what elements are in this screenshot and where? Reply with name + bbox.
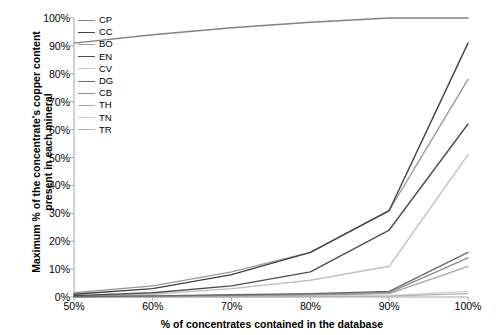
series-line-bo: [74, 79, 468, 292]
legend: CPCCBOENCVDGCBTHTNTR: [78, 14, 124, 136]
legend-item-cp[interactable]: CP: [78, 14, 124, 26]
legend-swatch-icon: [78, 117, 95, 118]
legend-swatch-icon: [78, 56, 95, 57]
legend-item-label: CV: [99, 64, 112, 74]
legend-swatch-icon: [78, 44, 95, 45]
legend-item-label: BO: [99, 39, 113, 49]
legend-item-label: CB: [99, 88, 112, 98]
legend-item-tn[interactable]: TN: [78, 112, 124, 124]
legend-item-cv[interactable]: CV: [78, 63, 124, 75]
legend-swatch-icon: [78, 20, 95, 21]
x-axis-title: % of concentrates contained in the datab…: [74, 318, 470, 330]
plot-area: [0, 0, 502, 335]
x-axis-tick-label: 90%: [366, 300, 412, 312]
legend-swatch-icon: [78, 81, 95, 82]
legend-swatch-icon: [78, 68, 95, 69]
legend-item-label: CP: [99, 15, 112, 25]
legend-item-tr[interactable]: TR: [78, 124, 124, 136]
legend-item-label: TR: [99, 125, 112, 135]
legend-item-label: EN: [99, 52, 112, 62]
legend-item-th[interactable]: TH: [78, 99, 124, 111]
legend-swatch-icon: [78, 93, 95, 94]
chart-root: Maximum % of the concentrate's copper co…: [0, 0, 502, 335]
legend-item-bo[interactable]: BO: [78, 38, 124, 50]
series-line-cc: [74, 43, 468, 294]
legend-item-label: TN: [99, 113, 112, 123]
legend-item-dg[interactable]: DG: [78, 75, 124, 87]
legend-swatch-icon: [78, 105, 95, 106]
series-line-cp: [74, 18, 468, 43]
x-axis-tick-label: 100%: [445, 300, 491, 312]
x-axis-tick-label: 70%: [209, 300, 255, 312]
legend-item-cb[interactable]: CB: [78, 87, 124, 99]
legend-item-label: DG: [99, 76, 113, 86]
x-axis-tick-label: 50%: [51, 300, 97, 312]
legend-swatch-icon: [78, 32, 95, 33]
series-line-cv: [74, 155, 468, 296]
legend-item-en[interactable]: EN: [78, 51, 124, 63]
x-axis-tick-label: 60%: [130, 300, 176, 312]
series-line-en: [74, 124, 468, 296]
legend-item-label: CC: [99, 27, 113, 37]
legend-item-cc[interactable]: CC: [78, 26, 124, 38]
legend-swatch-icon: [78, 129, 95, 130]
legend-item-label: TH: [99, 100, 112, 110]
x-axis-tick-label: 80%: [287, 300, 333, 312]
